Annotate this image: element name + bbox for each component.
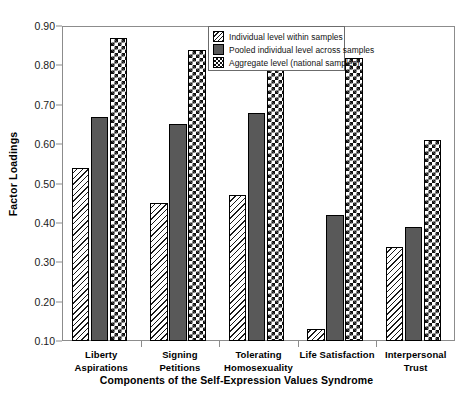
x-axis-category-label: Interpersonal Trust	[376, 348, 455, 374]
bar	[386, 247, 404, 342]
bar	[345, 58, 363, 342]
y-axis-tick-label: 0.30	[9, 256, 55, 268]
x-axis-category-label: Signing Petitions	[141, 348, 220, 374]
x-axis-tick-mark	[376, 341, 377, 347]
x-axis-category-label: Life Satisfaction	[298, 348, 377, 361]
legend-item-pooled-individual: Pooled individual level across samples	[213, 43, 340, 56]
bar-group	[141, 26, 220, 341]
bar	[110, 38, 128, 341]
bar-group	[219, 26, 298, 341]
x-axis-tick-mark	[141, 341, 142, 347]
legend-item-individual-within: Individual level within samples	[213, 30, 340, 43]
x-axis-title: Components of the Self-Expression Values…	[0, 374, 473, 386]
legend: Individual level within samples Pooled i…	[208, 26, 345, 71]
x-axis-category-label-line: Signing Petitions	[141, 348, 220, 374]
bar-group	[298, 26, 377, 341]
bar	[326, 215, 344, 341]
y-axis-tick-label: 0.40	[9, 217, 55, 229]
legend-label: Pooled individual level across samples	[229, 45, 374, 55]
legend-label: Aggregate level (national samples)	[229, 58, 360, 68]
factor-loadings-bar-chart: Factor Loadings 0.900.800.700.600.500.40…	[0, 0, 473, 396]
legend-label: Individual level within samples	[229, 32, 343, 42]
x-axis-tick-mark	[298, 341, 299, 347]
x-axis-tick-mark	[219, 341, 220, 347]
y-axis-tick-label: 0.70	[9, 99, 55, 111]
y-axis-tick-label: 0.50	[9, 178, 55, 190]
bars-layer	[62, 26, 455, 341]
x-axis-category-label-line: Tolerating	[219, 348, 298, 361]
legend-swatch-hatch-icon	[213, 31, 224, 42]
x-axis-category-label-line: Homosexuality	[219, 361, 298, 374]
bar	[188, 50, 206, 341]
y-axis-tick-label: 0.60	[9, 138, 55, 150]
y-axis-tick-label: 0.10	[9, 335, 55, 347]
y-axis-tick-label: 0.90	[9, 20, 55, 32]
bar	[248, 113, 266, 341]
bar	[169, 124, 187, 341]
bar	[424, 140, 442, 341]
x-axis-category-label: Liberty Aspirations	[62, 348, 141, 374]
bar	[405, 227, 423, 341]
legend-item-aggregate-national: Aggregate level (national samples)	[213, 56, 340, 69]
x-axis-category-label: ToleratingHomosexuality	[219, 348, 298, 374]
y-axis-tick-label: 0.80	[9, 59, 55, 71]
x-axis-category-label-line: Interpersonal Trust	[376, 348, 455, 374]
bar-group	[62, 26, 141, 341]
y-axis-tick-label: 0.20	[9, 296, 55, 308]
x-axis-category-label-line: Life Satisfaction	[298, 348, 377, 361]
legend-swatch-solid-icon	[213, 44, 224, 55]
bar	[72, 168, 90, 341]
bar	[91, 117, 109, 341]
bar	[267, 58, 285, 342]
x-axis-category-label-line: Liberty Aspirations	[62, 348, 141, 374]
bar	[229, 195, 247, 341]
bar	[307, 329, 325, 341]
legend-swatch-checker-icon	[213, 57, 224, 68]
bar	[150, 203, 168, 341]
bar-group	[376, 26, 455, 341]
